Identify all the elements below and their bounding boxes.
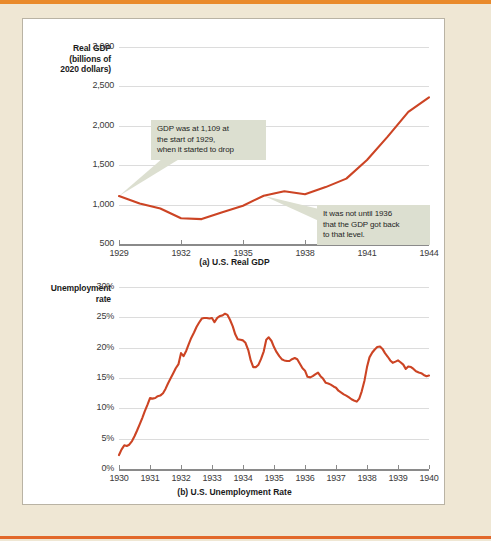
chart-us-real-gdp: Real GDP(billions of2020 dollars) 5001,0…: [23, 19, 446, 275]
annotation-line: It was not until 1936: [323, 209, 424, 220]
annotation-line: to that level.: [323, 230, 424, 241]
annotation-leader-recovery: [264, 196, 319, 221]
annotation-leader-start: [119, 158, 181, 196]
unemployment-plot-area: [23, 275, 446, 505]
gdp-caption: (a) U.S. Real GDP: [23, 257, 446, 267]
top-accent-rule: [0, 0, 491, 4]
unemployment-caption: (b) U.S. Unemployment Rate: [23, 487, 446, 497]
figure-panel: Real GDP(billions of2020 dollars) 5001,0…: [22, 18, 445, 505]
chart-us-unemployment-rate: Unemploymentrate 0%5%10%15%20%25%30% 193…: [23, 275, 446, 505]
gdp-annotation-start: GDP was at 1,109 atthe start of 1929,whe…: [151, 120, 266, 160]
bottom-accent-rule: [0, 536, 491, 539]
annotation-line: that the GDP got back: [323, 220, 424, 231]
data-series-line: [119, 314, 429, 455]
gdp-annotation-recovery: It was not until 1936that the GDP got ba…: [317, 205, 430, 245]
annotation-line: GDP was at 1,109 at: [157, 124, 260, 135]
annotation-line: the start of 1929,: [157, 135, 260, 146]
annotation-line: when it started to drop: [157, 145, 260, 156]
